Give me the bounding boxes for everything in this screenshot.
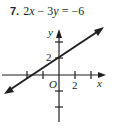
y-axis-label: y [48,27,53,38]
y-axis-arrow-icon [56,29,62,38]
line-arrow-right-icon [94,27,104,36]
x-axis-label: x [97,78,102,89]
y-tick-label: 2 [46,52,52,63]
origin-label: O [49,79,57,90]
x-tick-label: 2 [72,80,78,91]
coordinate-graph [0,0,116,131]
